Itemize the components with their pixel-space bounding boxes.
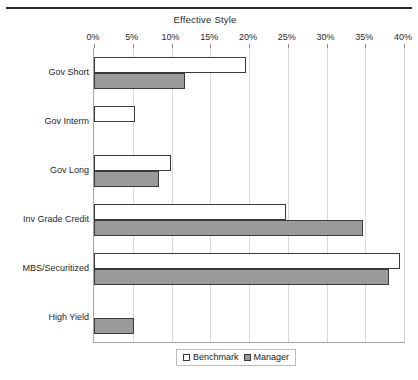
legend-swatch-benchmark [183, 354, 190, 361]
category-label: Gov Short [48, 68, 89, 77]
category-label: Inv Grade Credit [23, 215, 89, 224]
legend-label: Benchmark [193, 352, 239, 362]
category-label: High Yield [48, 313, 89, 322]
bar-manager[interactable] [94, 171, 159, 187]
bar-manager[interactable] [94, 318, 134, 334]
x-tick-label: 20% [239, 32, 257, 42]
x-tick-label: 30% [316, 32, 334, 42]
top-divider-rule [6, 7, 412, 9]
bar-manager[interactable] [94, 220, 363, 236]
plot-area: Gov ShortGov IntermGov LongInv Grade Cre… [93, 48, 405, 343]
category-row: Gov Long [94, 146, 404, 195]
bar-benchmark[interactable] [94, 57, 246, 73]
chart-title: Effective Style [40, 14, 370, 25]
category-row: High Yield [94, 293, 404, 342]
bar-manager[interactable] [94, 269, 389, 285]
chart-legend: BenchmarkManager [176, 349, 296, 366]
legend-label: Manager [254, 352, 290, 362]
legend-item[interactable]: Benchmark [183, 352, 239, 362]
category-row: Gov Short [94, 48, 404, 97]
legend-item[interactable]: Manager [244, 352, 290, 362]
category-label: Gov Interm [44, 117, 89, 126]
bar-benchmark[interactable] [94, 253, 400, 269]
x-tick-label: 40% [394, 32, 412, 42]
x-tick-label: 10% [161, 32, 179, 42]
bar-benchmark[interactable] [94, 155, 171, 171]
x-tick-label: 5% [125, 32, 138, 42]
category-label: MBS/Securitized [22, 264, 89, 273]
bar-benchmark[interactable] [94, 106, 135, 122]
x-tick-label: 35% [355, 32, 373, 42]
x-tick-mark [404, 44, 405, 48]
legend-swatch-manager [244, 354, 251, 361]
x-tick-label: 15% [200, 32, 218, 42]
x-axis-tick-labels: 0%5%10%15%20%25%30%35%40% [0, 32, 418, 45]
category-row: Gov Interm [94, 97, 404, 146]
category-label: Gov Long [50, 166, 89, 175]
category-row: Inv Grade Credit [94, 195, 404, 244]
x-tick-label: 25% [278, 32, 296, 42]
category-row: MBS/Securitized [94, 244, 404, 293]
bar-manager[interactable] [94, 73, 185, 89]
bar-benchmark[interactable] [94, 204, 286, 220]
x-tick-label: 0% [86, 32, 99, 42]
